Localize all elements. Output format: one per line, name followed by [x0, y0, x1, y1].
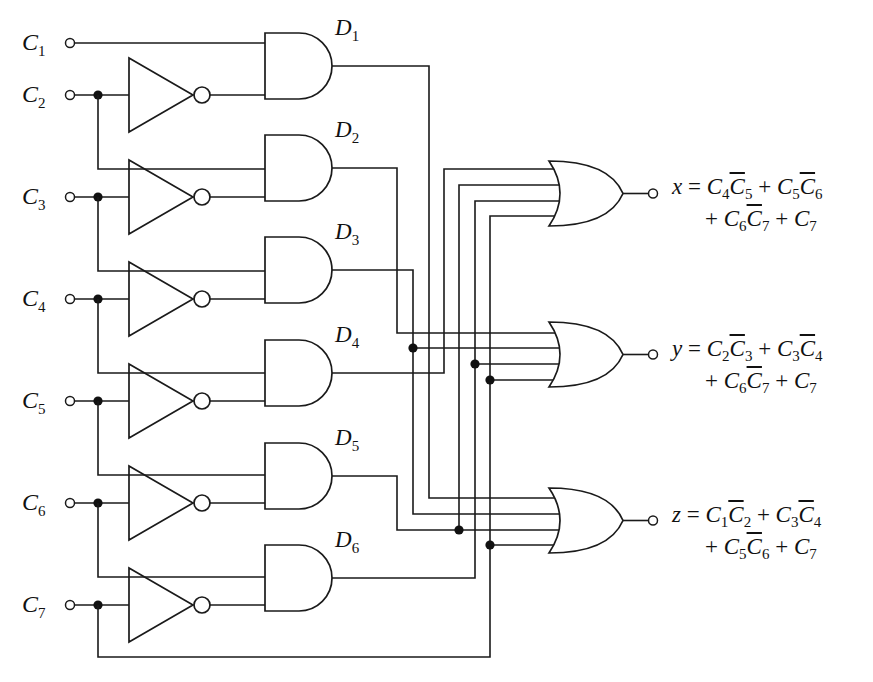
- wire-d3: [332, 270, 560, 514]
- equation-y-line2: + C6C7 + C7: [705, 366, 817, 396]
- wire-d6: [332, 201, 560, 578]
- complemented-variable: C: [800, 336, 815, 361]
- inverter-bubble: [194, 393, 210, 409]
- input-c6: C6: [22, 489, 75, 519]
- gate-label: D4: [334, 322, 360, 351]
- not-gate-triangle: [129, 262, 193, 336]
- inverter-bubble: [194, 597, 210, 613]
- equation-y-line1: y = C2C3 + C3C4: [672, 334, 823, 364]
- variable: C: [707, 336, 722, 361]
- and-gate-body: [265, 340, 332, 406]
- variable: C: [724, 206, 739, 231]
- input-label: C6: [22, 489, 46, 519]
- and-gate-d1: D1: [265, 15, 359, 99]
- complemented-variable: C: [728, 502, 743, 527]
- complemented-variable: C: [800, 174, 815, 199]
- junction-dot: [408, 343, 417, 352]
- gate-label: D3: [334, 219, 359, 248]
- inverter-6: [129, 466, 210, 540]
- operator: +: [769, 206, 793, 231]
- output-terminal: [649, 350, 658, 359]
- gate-label: D6: [334, 527, 360, 556]
- variable: C: [794, 368, 809, 393]
- not-gate-triangle: [129, 160, 193, 234]
- or-gate-y: [549, 322, 658, 387]
- wire-branch: [98, 503, 265, 577]
- variable: C: [776, 502, 791, 527]
- variable: C: [777, 174, 792, 199]
- input-terminal: [66, 193, 75, 202]
- gate-label: D2: [334, 117, 359, 146]
- gate-label: D1: [334, 15, 359, 44]
- inverter-4: [129, 262, 210, 336]
- output-terminal: [649, 516, 658, 525]
- complemented-variable: C: [747, 368, 762, 393]
- input-label: C7: [22, 591, 46, 621]
- input-label: C4: [22, 285, 46, 315]
- variable: C: [794, 206, 809, 231]
- variable: C: [724, 368, 739, 393]
- output-name: x: [672, 174, 682, 199]
- junction-dot: [485, 375, 494, 384]
- equation-x-line2: + C6C7 + C7: [705, 204, 817, 234]
- input-terminal: [66, 39, 75, 48]
- and-gate-body: [265, 33, 332, 99]
- input-c4: C4: [22, 285, 75, 315]
- wire-d4: [332, 169, 560, 373]
- not-gate-triangle: [129, 58, 193, 132]
- not-gate-triangle: [129, 466, 193, 540]
- and-gate-d4: D4: [265, 322, 360, 406]
- input-terminals: C1C2C3C4C5C6C7: [22, 29, 75, 621]
- wire-branch: [98, 401, 265, 475]
- input-terminal: [66, 397, 75, 406]
- wire-branch: [98, 299, 265, 373]
- variable: C: [707, 174, 722, 199]
- input-terminal: [66, 295, 75, 304]
- wire-d5-x: [459, 185, 560, 530]
- output-name: z: [672, 502, 681, 527]
- complemented-variable: C: [730, 336, 745, 361]
- junction-dot: [470, 359, 479, 368]
- junction-dot: [485, 540, 494, 549]
- complemented-variable: C: [747, 534, 762, 559]
- and-gates: D1D2D3D4D5D6: [265, 15, 360, 611]
- equation-z-line2: + C5C6 + C7: [705, 532, 817, 562]
- or-gate-body: [549, 322, 623, 387]
- and-gate-d5: D5: [265, 425, 359, 509]
- or-gate-z: [549, 488, 658, 553]
- input-c7: C7: [22, 591, 75, 621]
- operator: +: [769, 534, 793, 559]
- wire-branch: [98, 197, 265, 271]
- operator: +: [705, 206, 724, 231]
- and-gate-body: [265, 237, 332, 303]
- and-gate-body: [265, 443, 332, 509]
- input-terminal: [66, 601, 75, 610]
- operator: +: [751, 502, 775, 527]
- operator: +: [705, 534, 724, 559]
- inverter-2: [129, 58, 210, 132]
- output-terminal: [649, 189, 658, 198]
- inverter-bubble: [194, 291, 210, 307]
- operator: +: [752, 174, 776, 199]
- and-gate-body: [265, 135, 332, 201]
- equation-x-line1: x = C4C5 + C5C6: [672, 172, 823, 202]
- inverter-5: [129, 364, 210, 438]
- and-gate-d6: D6: [265, 527, 360, 611]
- input-terminal: [66, 499, 75, 508]
- operator: +: [769, 368, 793, 393]
- complemented-variable: C: [730, 174, 745, 199]
- inverter-bubble: [194, 495, 210, 511]
- wire-d1: [332, 66, 560, 498]
- and-gate-d3: D3: [265, 219, 359, 303]
- input-c2: C2: [22, 81, 75, 111]
- and-gate-d2: D2: [265, 117, 359, 201]
- variable: C: [724, 534, 739, 559]
- inverter-3: [129, 160, 210, 234]
- input-terminal: [66, 91, 75, 100]
- junction-dot: [454, 525, 463, 534]
- not-gate-triangle: [129, 364, 193, 438]
- variable: C: [794, 534, 809, 559]
- input-label: C3: [22, 183, 46, 213]
- input-c3: C3: [22, 183, 75, 213]
- or-gates: [549, 161, 658, 553]
